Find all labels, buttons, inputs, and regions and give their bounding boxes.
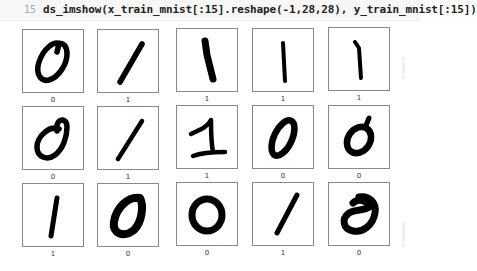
digit-image-tile: 1	[252, 28, 314, 92]
digit-label: 0	[176, 249, 238, 257]
digit-label: 1	[97, 96, 159, 104]
digit-image-tile: 0	[252, 105, 314, 169]
code-cell[interactable]: 15 ds_imshow(x_train_mnist[:15].reshape(…	[0, 0, 420, 21]
digit-image	[176, 105, 238, 169]
digit-zero-glyph	[23, 30, 83, 92]
digit-zero-glyph	[253, 106, 313, 168]
line-number: 15	[24, 4, 36, 15]
digit-label: 0	[252, 172, 314, 180]
digit-zero-glyph	[23, 107, 83, 169]
digit-label: 0	[328, 172, 390, 180]
digit-label: 1	[97, 173, 159, 181]
digit-image	[328, 105, 390, 169]
digit-image-tile: 1	[176, 105, 238, 169]
digit-label: 1	[176, 172, 238, 180]
digit-image	[22, 106, 84, 170]
digit-zero-glyph	[98, 184, 158, 246]
scroll-artifact	[402, 57, 405, 79]
digit-zero-glyph	[329, 183, 389, 245]
cell-output: 0 1 1 1 1	[0, 21, 420, 271]
digit-zero-glyph	[329, 106, 389, 168]
digit-one-glyph	[253, 183, 313, 245]
digit-image	[328, 182, 390, 246]
digit-label: 1	[176, 95, 238, 103]
digit-label: 1	[252, 249, 314, 257]
digit-image-tile: 1	[97, 106, 159, 170]
digit-label: 1	[328, 94, 390, 102]
digit-image	[97, 183, 159, 247]
code-line[interactable]: ds_imshow(x_train_mnist[:15].reshape(-1,…	[43, 3, 477, 16]
digit-image	[252, 28, 314, 92]
digit-image-tile: 0	[328, 105, 390, 169]
digit-label: 0	[22, 173, 84, 181]
digit-image	[176, 182, 238, 246]
digit-image-tile: 1	[176, 28, 238, 92]
digit-image	[22, 183, 84, 247]
digit-image-tile: 0	[97, 183, 159, 247]
digit-one-glyph	[253, 29, 313, 91]
digit-image	[328, 27, 390, 91]
digit-image-tile: 0	[22, 29, 84, 93]
digit-one-glyph	[98, 107, 158, 169]
digit-image	[22, 29, 84, 93]
digit-image-tile: 0	[328, 182, 390, 246]
digit-label: 1	[252, 95, 314, 103]
digit-image-tile: 1	[252, 182, 314, 246]
digit-one-glyph	[98, 30, 158, 92]
digit-image	[97, 29, 159, 93]
digit-image	[97, 106, 159, 170]
digit-one-glyph	[329, 28, 389, 90]
scroll-artifact	[402, 221, 405, 247]
digit-image-tile: 1	[22, 183, 84, 247]
digit-label: 0	[22, 96, 84, 104]
digit-image-tile: 0	[22, 106, 84, 170]
digit-image	[252, 105, 314, 169]
digit-one-glyph	[23, 184, 83, 246]
digit-zero-glyph	[177, 183, 237, 245]
digit-label: 0	[328, 249, 390, 257]
digit-label: 0	[97, 250, 159, 258]
digit-image-tile: 1	[328, 27, 390, 91]
digit-one-with-base-glyph	[177, 106, 237, 168]
digit-one-glyph	[177, 29, 237, 91]
digit-image	[176, 28, 238, 92]
digit-image-tile: 1	[97, 29, 159, 93]
digit-image	[252, 182, 314, 246]
digit-image-tile: 0	[176, 182, 238, 246]
digit-label: 1	[22, 250, 84, 258]
